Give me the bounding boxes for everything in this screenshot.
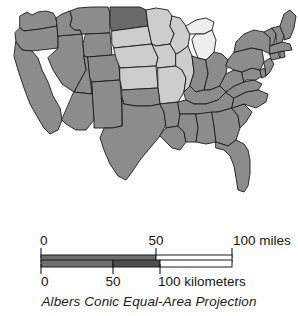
state-pennsylvania <box>226 48 264 72</box>
projection-caption: Albers Conic Equal-Area Projection <box>0 294 298 309</box>
miles-tick-label-0: 0 <box>40 233 48 248</box>
km-tick-label-0: 0 <box>41 274 49 289</box>
us-map-svg <box>0 0 298 222</box>
state-colorado <box>88 54 120 82</box>
state-nebraska <box>114 44 158 68</box>
scale-bar: 0 50 100 miles 0 50 <box>0 228 298 290</box>
map-figure: 0 50 100 miles 0 50 <box>0 0 298 316</box>
km-tick-label-50: 50 <box>105 274 120 289</box>
state-kansas <box>120 66 158 90</box>
km-bar-open-segment <box>160 260 232 267</box>
state-missouri <box>158 66 186 104</box>
state-new-mexico <box>92 80 122 128</box>
km-bar-second-segment <box>113 260 160 267</box>
miles-tick-label-50: 50 <box>148 233 163 248</box>
state-oregon <box>15 26 58 51</box>
scale-bar-svg: 0 50 100 miles 0 50 <box>0 228 298 290</box>
state-montana <box>70 7 110 34</box>
miles-tick-label-100: 100 miles <box>233 233 291 248</box>
km-bar-first-segment <box>41 260 113 267</box>
state-rhode-island <box>280 51 285 58</box>
state-florida <box>216 140 250 192</box>
km-tick-label-100: 100 kilometers <box>158 274 246 289</box>
state-oklahoma <box>122 88 160 106</box>
state-wyoming <box>83 33 112 57</box>
us-map <box>0 0 298 222</box>
state-new-jersey <box>264 58 274 76</box>
